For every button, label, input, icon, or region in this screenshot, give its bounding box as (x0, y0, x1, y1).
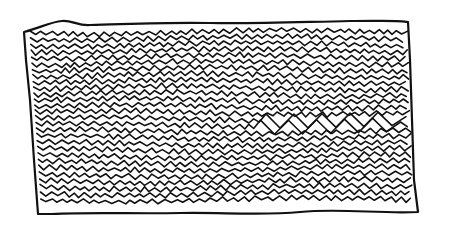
wavy-line (37, 140, 407, 149)
wavy-line (32, 65, 407, 74)
wavy-line (38, 158, 409, 167)
wavy-lines-group (30, 28, 412, 204)
wavy-line (40, 189, 409, 198)
wavy-line (30, 28, 408, 37)
wavy-lines-sketch (0, 0, 463, 235)
wavy-line (39, 171, 412, 180)
wavy-line (41, 195, 411, 204)
wavy-line (31, 40, 403, 49)
wavy-line (39, 164, 410, 173)
wavy-line (40, 183, 412, 192)
wavy-line (34, 90, 406, 99)
wavy-line (33, 71, 409, 80)
wavy-line (33, 77, 405, 86)
